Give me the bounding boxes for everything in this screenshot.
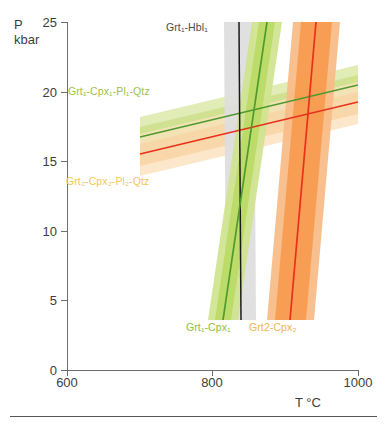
plot-area [68,22,358,370]
y-tick-label-5: 5 [20,294,57,307]
y-tick-label-25: 25 [20,16,57,29]
y-tick-label-15: 15 [20,155,57,168]
x-tick-label-800: 800 [182,376,242,389]
y-tick-label-10: 10 [20,225,57,238]
x-tick-label-1000: 1000 [328,376,387,389]
x-tick-label-600: 600 [37,376,97,389]
y-axis-title-p: P [14,17,23,32]
y-tick-20 [61,92,67,93]
y-tick-5 [61,300,67,301]
y-axis-line [67,22,68,370]
y-tick-10 [61,231,67,232]
pt-diagram-figure: 25 20 15 10 5 0 600 800 1000 P kbar T °C… [0,0,387,424]
x-axis-title: T °C [295,396,321,409]
annotation-grt2-cpx2: Grt2-Cpx₂ [249,322,297,333]
plot-svg [68,22,358,370]
annotation-grt1-cpx1-pl1-qtz: Grt₁-Cpx₁-Pl₁-Qtz [68,86,150,97]
footer-divider [10,416,377,417]
y-tick-25 [61,22,67,23]
y-tick-label-20: 20 [20,86,57,99]
annotation-grt1-cpx1: Grt₁-Cpx₁ [186,322,231,333]
y-tick-15 [61,161,67,162]
annotation-grt1-hbl1: Grt₁-Hbl₁ [166,22,208,33]
annotation-grt2-cpx2-pl2-qtz: Grt₂-Cpx₂-Pl₂-Qtz [66,176,149,187]
y-axis-title-kbar: kbar [14,32,39,47]
